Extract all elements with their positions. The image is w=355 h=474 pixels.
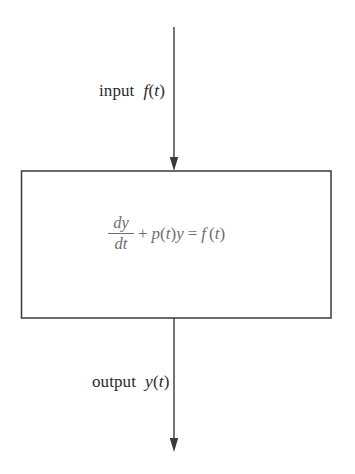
coefficient-function: p [152, 224, 161, 243]
output-label-function: y [145, 371, 153, 391]
output-label-word: output [92, 372, 136, 391]
output-label: outputy(t) [92, 373, 169, 391]
derivative-fraction: dy dt [108, 214, 134, 253]
output-arrow [170, 318, 178, 452]
coefficient-term: p(t)y [152, 225, 184, 242]
system-equation: dy dt + p(t)y = f(t) [108, 214, 225, 253]
output-arrow-head-icon [170, 438, 178, 452]
forcing-close-paren: ) [219, 224, 225, 243]
forcing-term: f(t) [201, 225, 225, 242]
fraction-denominator: dt [112, 234, 131, 253]
forcing-function: f [201, 224, 206, 243]
input-label-close-paren: ) [159, 81, 165, 100]
input-arrow-head-icon [170, 157, 178, 171]
plus-operator: + [134, 225, 152, 242]
input-label-word: input [99, 81, 134, 100]
dependent-variable: y [176, 224, 184, 243]
equals-operator: = [184, 225, 202, 242]
fraction-numerator: dy [110, 214, 132, 233]
input-label: inputf(t) [99, 82, 165, 100]
output-label-close-paren: ) [164, 372, 170, 391]
diagram-canvas: inputf(t) dy dt + p(t)y = f(t) outputy(t… [0, 0, 355, 474]
input-arrow [170, 27, 178, 171]
